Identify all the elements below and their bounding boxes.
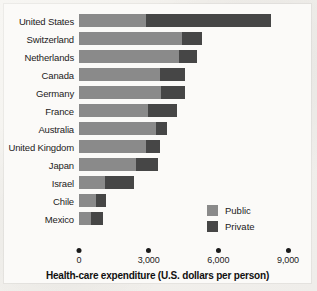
bar-row: Australia: [4, 122, 311, 135]
x-axis-tick-label: 0: [77, 255, 82, 265]
bar-row: Japan: [4, 158, 311, 171]
category-label: Israel: [4, 177, 74, 188]
bar-segment-public: [79, 86, 161, 99]
category-label: Australia: [4, 123, 74, 134]
bar-segment-private: [146, 140, 160, 153]
tick-dot-icon: [146, 248, 151, 253]
category-label: Germany: [4, 87, 74, 98]
bar-segment-public: [79, 140, 146, 153]
legend-swatch-private-icon: [207, 221, 218, 232]
category-label: Mexico: [4, 213, 74, 224]
category-label: United States: [4, 15, 74, 26]
bar-segment-private: [146, 14, 270, 27]
bar-row: Canada: [4, 68, 311, 81]
legend-label-public: Public: [225, 205, 251, 216]
bar-row: Mexico: [4, 212, 311, 225]
category-label: Japan: [4, 159, 74, 170]
category-label: France: [4, 105, 74, 116]
bar-row: Israel: [4, 176, 311, 189]
x-axis-title: Health-care expenditure (U.S. dollars pe…: [4, 270, 311, 281]
bar-segment-public: [79, 104, 148, 117]
stacked-bar: [79, 50, 197, 63]
bar-row: Switzerland: [4, 32, 311, 45]
bar-segment-private: [105, 176, 134, 189]
bar-segment-public: [79, 32, 182, 45]
x-axis: 03,0006,0009,000: [4, 248, 311, 270]
bar-segment-private: [179, 50, 198, 63]
bar-segment-public: [79, 212, 91, 225]
x-axis-tick: 3,000: [138, 248, 160, 265]
category-label: Netherlands: [4, 51, 74, 62]
bar-segment-private: [156, 122, 168, 135]
legend-item-private: Private: [207, 221, 255, 232]
bar-segment-private: [96, 194, 105, 207]
stacked-bar: [79, 32, 202, 45]
page-background: United StatesSwitzerlandNetherlandsCanad…: [0, 0, 317, 291]
x-axis-tick: 0: [77, 248, 82, 265]
x-axis-tick: 6,000: [207, 248, 229, 265]
bar-row: Chile: [4, 194, 311, 207]
stacked-bar: [79, 14, 271, 27]
category-label: United Kingdom: [4, 141, 74, 152]
bar-rows: United StatesSwitzerlandNetherlandsCanad…: [4, 14, 311, 230]
bar-segment-private: [136, 158, 158, 171]
category-label: Canada: [4, 69, 74, 80]
bar-segment-public: [79, 14, 146, 27]
bar-segment-private: [161, 86, 184, 99]
stacked-bar: [79, 212, 103, 225]
x-axis-tick-label: 9,000: [277, 255, 299, 265]
bar-row: Netherlands: [4, 50, 311, 63]
bar-segment-public: [79, 50, 179, 63]
legend-item-public: Public: [207, 205, 255, 216]
chart-legend: Public Private: [207, 205, 255, 237]
stacked-bar: [79, 68, 185, 81]
stacked-bar: [79, 86, 185, 99]
bar-segment-private: [160, 68, 184, 81]
bar-row: United Kingdom: [4, 140, 311, 153]
tick-dot-icon: [216, 248, 221, 253]
stacked-bar: [79, 104, 177, 117]
stacked-bar: [79, 158, 158, 171]
bar-segment-public: [79, 68, 160, 81]
tick-dot-icon: [77, 248, 82, 253]
bar-segment-private: [91, 212, 104, 225]
bar-segment-public: [79, 122, 156, 135]
bar-segment-public: [79, 194, 96, 207]
category-label: Chile: [4, 195, 74, 206]
chart-plate: United StatesSwitzerlandNetherlandsCanad…: [4, 4, 311, 283]
legend-label-private: Private: [225, 221, 255, 232]
category-label: Switzerland: [4, 33, 74, 44]
bar-row: France: [4, 104, 311, 117]
x-axis-tick: 9,000: [277, 248, 299, 265]
bar-segment-private: [148, 104, 177, 117]
stacked-bar: [79, 140, 160, 153]
bar-segment-public: [79, 158, 136, 171]
tick-dot-icon: [286, 248, 291, 253]
stacked-bar: [79, 122, 167, 135]
bar-segment-public: [79, 176, 105, 189]
legend-swatch-public-icon: [207, 205, 218, 216]
stacked-bar: [79, 194, 106, 207]
bar-row: Germany: [4, 86, 311, 99]
bar-row: United States: [4, 14, 311, 27]
x-axis-tick-label: 3,000: [138, 255, 160, 265]
x-axis-tick-label: 6,000: [207, 255, 229, 265]
bar-segment-private: [182, 32, 202, 45]
stacked-bar: [79, 176, 134, 189]
